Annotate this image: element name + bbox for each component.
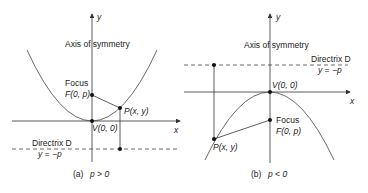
y-label-b: y (275, 12, 281, 22)
vertex-label-a: V(0, 0) (92, 123, 118, 133)
point-label-a: P(x, y) (124, 106, 149, 116)
axis-of-symmetry-b: Axis of symmetry (244, 40, 309, 50)
figure-b: y x Axis of symmetry Directrix D y = −p … (184, 12, 355, 179)
directrix-dot-a (118, 147, 122, 151)
x-label-b: x (349, 96, 355, 106)
point-dot-a (118, 106, 122, 110)
caption-a-prefix: (a) (73, 169, 84, 179)
parabola-diagram: y x Axis of symmetry Focus F(0, p) P(x, … (0, 0, 368, 193)
axis-of-symmetry-a: Axis of symmetry (65, 39, 130, 49)
point-dot-b (212, 137, 216, 141)
focus-coord-a: F(0, p) (65, 89, 90, 99)
focus-dot-a (90, 93, 94, 97)
directrix-title-a: Directrix D (32, 138, 72, 148)
point-label-b: P(x, y) (213, 142, 238, 152)
focus-to-point-a (92, 95, 120, 108)
vertex-dot-b (268, 90, 272, 94)
directrix-eq-b: y = −p (317, 65, 342, 75)
diagram-canvas: y x Axis of symmetry Focus F(0, p) P(x, … (0, 0, 368, 193)
y-label-a: y (96, 12, 102, 22)
focus-coord-b: F(0, p) (276, 126, 301, 136)
focus-title-a: Focus (65, 78, 88, 88)
caption-b-cond: p < 0 (267, 169, 287, 179)
directrix-title-b: Directrix D (311, 54, 351, 64)
caption-b-prefix: (b) (251, 169, 262, 179)
caption-a-cond: p > 0 (89, 169, 109, 179)
directrix-eq-a: y = −p (37, 149, 62, 159)
x-label-a: x (173, 125, 179, 135)
focus-title-b: Focus (276, 115, 299, 125)
focus-dot-b (268, 118, 272, 122)
focus-to-point-b (214, 120, 270, 139)
directrix-dot-b (212, 63, 216, 67)
vertex-label-b: V(0, 0) (272, 80, 298, 90)
figure-a: y x Axis of symmetry Focus F(0, p) P(x, … (12, 12, 180, 179)
